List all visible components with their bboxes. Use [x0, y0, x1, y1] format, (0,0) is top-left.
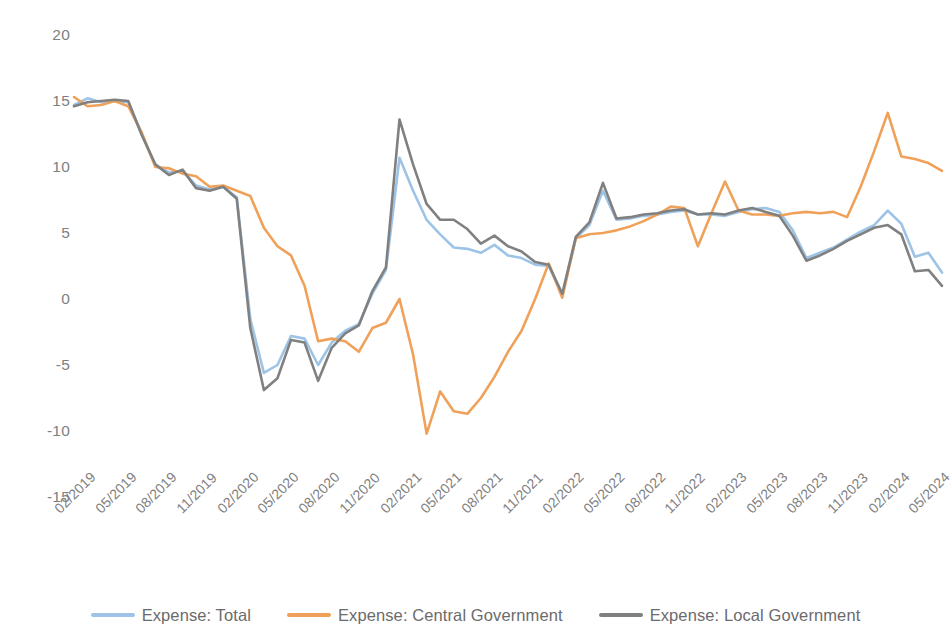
series-line	[74, 98, 942, 373]
legend-item[interactable]: Expense: Local Government	[599, 606, 861, 624]
legend-label: Expense: Total	[142, 606, 251, 624]
legend-item[interactable]: Expense: Central Government	[287, 606, 563, 624]
legend-item[interactable]: Expense: Total	[91, 606, 251, 624]
legend-label: Expense: Local Government	[650, 606, 861, 624]
legend-label: Expense: Central Government	[338, 606, 563, 624]
legend-swatch-icon	[91, 613, 135, 617]
legend-swatch-icon	[599, 613, 643, 617]
series-line	[74, 97, 942, 434]
chart-legend: Expense: TotalExpense: Central Governmen…	[0, 601, 951, 629]
series-line	[74, 100, 942, 390]
legend-swatch-icon	[287, 613, 331, 617]
x-axis: 02/201905/201908/201911/201902/202005/20…	[0, 505, 951, 590]
line-chart: 20151050-5-10-15 02/201905/201908/201911…	[0, 0, 951, 634]
